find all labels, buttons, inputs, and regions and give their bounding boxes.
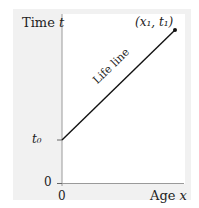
lifeline-diagram — [0, 0, 199, 208]
zero-x-label: 0 — [58, 190, 66, 202]
age-var: x — [180, 188, 187, 203]
time-axis-label: Time t — [22, 16, 64, 29]
time-label-text: Time — [22, 15, 55, 30]
t0-label: t₀ — [32, 133, 42, 145]
zero-y-label: 0 — [44, 176, 52, 188]
age-label-text: Age — [150, 188, 175, 203]
life-line — [62, 30, 175, 140]
endpoint-dot — [173, 28, 177, 32]
age-axis-label: Age x — [150, 189, 187, 202]
time-var: t — [59, 15, 64, 30]
endpoint-label: (x₁, t₁) — [135, 16, 173, 28]
